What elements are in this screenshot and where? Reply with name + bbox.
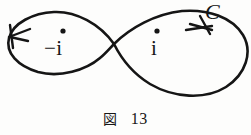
contour-name-label: C — [205, 1, 220, 23]
left-pole-label: −i — [44, 38, 63, 59]
figure-caption: 図13 — [0, 108, 251, 128]
right-pole-dot-icon — [154, 28, 159, 33]
caption-figure-number: 13 — [131, 110, 148, 127]
left-pole-dot-icon — [60, 28, 65, 33]
figure-container: −i i C 図13 — [0, 0, 251, 135]
right-loop-path — [114, 11, 248, 96]
right-pole-label: i — [151, 38, 157, 59]
left-loop-arrow-icon — [9, 25, 30, 48]
caption-figure-word: 図 — [103, 111, 118, 127]
